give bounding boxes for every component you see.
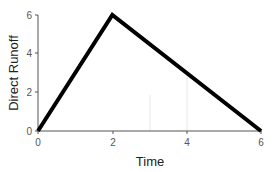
hydrograph-chart: 0 2 4 6 0 2 4 6 Time Direct Runoff	[0, 0, 279, 172]
x-tick-label: 0	[35, 137, 41, 148]
y-ticks: 0 2 4 6	[26, 10, 38, 137]
y-axis-label: Direct Runoff	[6, 35, 21, 111]
y-tick-label: 2	[26, 87, 32, 98]
y-tick-label: 4	[26, 48, 32, 59]
x-axis-label: Time	[136, 154, 164, 169]
x-tick-label: 4	[184, 137, 190, 148]
x-ticks: 0 2 4 6	[35, 131, 264, 148]
x-tick-label: 2	[110, 137, 116, 148]
y-tick-label: 0	[26, 126, 32, 137]
y-tick-label: 6	[26, 10, 32, 21]
x-tick-label: 6	[258, 137, 264, 148]
